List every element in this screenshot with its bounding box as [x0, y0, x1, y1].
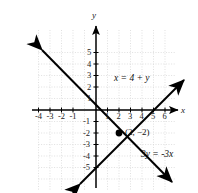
y-tick-label-4: 4: [87, 60, 91, 69]
intersection-point-label: (2, −2): [125, 128, 150, 137]
x-tick-label--2: -2: [58, 112, 65, 121]
x-tick-label--4: -4: [35, 112, 42, 121]
x-tick-label-3: 3: [128, 112, 132, 121]
x-tick-label--1: -1: [70, 112, 77, 121]
y-tick-label--2: -2: [83, 129, 90, 138]
x-tick-label--3: -3: [47, 112, 54, 121]
graph-canvas: [0, 0, 198, 193]
y-axis-name: y: [92, 11, 96, 20]
y-tick-label--3: -3: [83, 140, 90, 149]
y-tick-label--5: -5: [83, 163, 90, 172]
y-tick-label-5: 5: [87, 48, 91, 57]
equation-label-upper: x = 4 + y: [114, 74, 150, 84]
y-tick-label-3: 3: [87, 71, 91, 80]
x-tick-label-6: 6: [163, 112, 167, 121]
y-tick-label--4: -4: [83, 152, 90, 161]
x-tick-label-1: 1: [105, 112, 109, 121]
coordinate-graph-figure: -4 -3 -2 -1 1 2 3 4 5 6 5 4 3 2 1 -1 -2 …: [0, 0, 198, 193]
x-tick-label-4: 4: [140, 112, 144, 121]
x-tick-label-5: 5: [151, 112, 155, 121]
y-tick-label--1: -1: [83, 117, 90, 126]
x-tick-label-2: 2: [117, 112, 121, 121]
intersection-point-marker: [116, 130, 123, 137]
equation-label-lower: 3y = -3x: [141, 150, 173, 160]
y-tick-label-1: 1: [87, 94, 91, 103]
y-tick-label-2: 2: [87, 83, 91, 92]
x-axis-name: x: [181, 106, 185, 115]
